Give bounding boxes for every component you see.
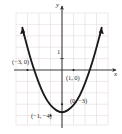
coordinate-plane [0,0,122,134]
point-label-root-right: (1, 0) [66,75,79,82]
point-label-vertex: (−1, −4) [31,113,52,120]
point-label-root-left: (−3, 0) [12,59,29,66]
y-axis-label: y [56,2,59,9]
point-label-y-intercept: (0, −3) [70,98,87,105]
y-axis-tick-label-1: 1 [57,49,60,56]
graph-figure: (−3, 0) (1, 0) (0, −3) (−1, −4) y x 1 [0,0,122,134]
x-axis-label: x [114,71,117,78]
